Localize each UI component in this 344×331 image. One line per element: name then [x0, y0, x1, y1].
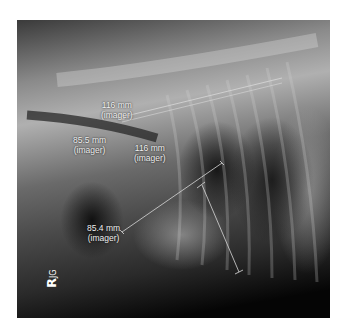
measurement-overlay [17, 20, 330, 318]
measurement-label-3: 116 mm (imager) [134, 143, 166, 163]
measurement-line-1 [122, 78, 282, 117]
radiograph-image: 116 mm (imager) 85.5 mm (imager) 116 mm … [17, 20, 330, 318]
side-marker: RJG [44, 269, 59, 288]
measurement-label-2: 85.5 mm (imager) [73, 135, 106, 155]
measurement-label-1: 116 mm (imager) [101, 100, 133, 120]
measurement-line-3 [202, 185, 239, 272]
measurement-label-4: 85.4 mm (imager) [87, 223, 120, 243]
